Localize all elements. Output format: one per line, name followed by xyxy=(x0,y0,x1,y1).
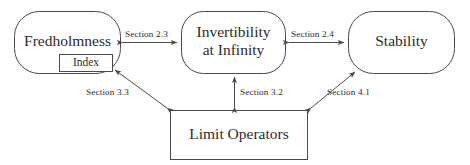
edge-label-section-4-1: Section 4.1 xyxy=(327,87,370,97)
edge-label-section-2-3: Section 2.3 xyxy=(125,29,168,39)
node-label-invertibility: Invertibility at Infinity xyxy=(181,23,286,58)
node-label-stability: Stability xyxy=(348,33,455,50)
node-label-limit-operators: Limit Operators xyxy=(170,126,308,143)
node-label-index: Index xyxy=(60,56,112,68)
node-label-invertibility-line1: Invertibility xyxy=(181,23,286,41)
edge-label-section-3-2: Section 3.2 xyxy=(240,87,283,97)
edge-label-section-3-3: Section 3.3 xyxy=(86,87,129,97)
node-label-fredholmness: Fredholmness xyxy=(14,33,121,50)
node-label-invertibility-line2: at Infinity xyxy=(181,41,286,59)
diagram-canvas: Fredholmness Index Invertibility at Infi… xyxy=(0,0,470,165)
edge-label-section-2-4: Section 2.4 xyxy=(291,29,334,39)
